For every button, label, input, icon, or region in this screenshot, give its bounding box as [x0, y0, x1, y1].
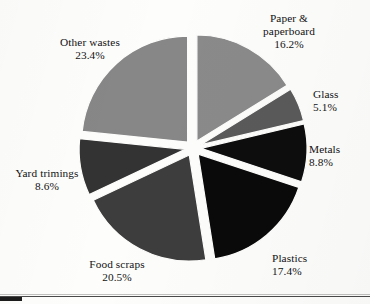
pie-label-glass-text: Glass: [313, 88, 367, 101]
pie-value-metals: 8.8%: [309, 156, 367, 169]
pie-label-yard-trimings-text: Yard trimings: [7, 167, 87, 180]
pie-label-glass: Glass 5.1%: [313, 88, 367, 114]
pie-label-metals: Metals 8.8%: [309, 143, 367, 169]
pie-label-plastics-text: Plastics: [272, 252, 338, 265]
pie-label-yard-trimings: Yard trimings 8.6%: [7, 167, 87, 193]
pie-value-plastics: 17.4%: [272, 265, 338, 278]
pie-value-yard-trimings: 8.6%: [7, 180, 87, 193]
pie-value-glass: 5.1%: [313, 101, 367, 114]
pie-label-paper-paperboard-line2: paperboard: [246, 25, 332, 38]
pie-value-paper-paperboard: 16.2%: [246, 38, 332, 51]
pie-label-food-scraps: Food scraps 20.5%: [74, 258, 160, 284]
scan-corner-mark: [0, 297, 22, 301]
pie-value-other-wastes: 23.4%: [44, 49, 136, 62]
pie-label-other-wastes: Other wastes 23.4%: [44, 36, 136, 62]
pie-label-paper-paperboard-line1: Paper &: [246, 12, 332, 25]
page-rule-soft: [0, 294, 370, 295]
pie-label-other-wastes-text: Other wastes: [44, 36, 136, 49]
pie-value-food-scraps: 20.5%: [74, 271, 160, 284]
page-rule: [0, 296, 370, 297]
pie-label-plastics: Plastics 17.4%: [272, 252, 338, 278]
figure-canvas: Paper & paperboard 16.2% Glass 5.1% Meta…: [0, 0, 370, 304]
pie-slice-group: [79, 35, 307, 261]
pie-label-metals-text: Metals: [309, 143, 367, 156]
pie-label-food-scraps-text: Food scraps: [74, 258, 160, 271]
pie-label-paper-paperboard: Paper & paperboard 16.2%: [246, 12, 332, 50]
